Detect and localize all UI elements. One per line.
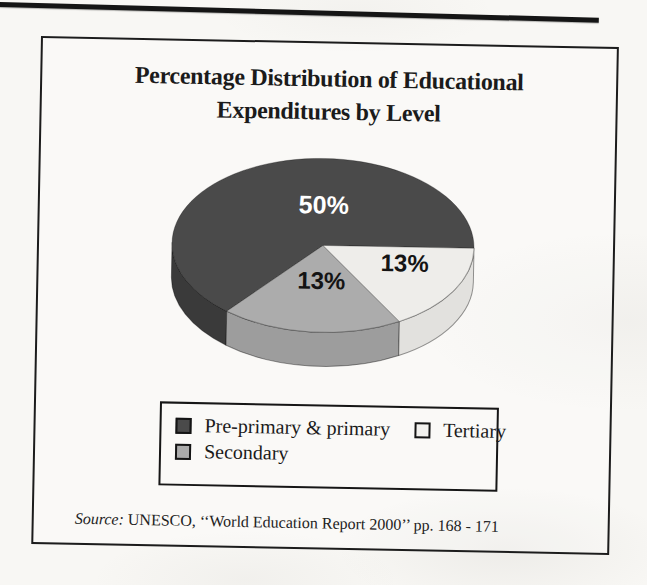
source-prefix: Source: [75,510,124,528]
pie-value-label-1: 13% [297,266,346,294]
page-top-rule [0,2,599,22]
source-text: UNESCO, ‘‘World Education Report 2000’’ … [124,511,499,535]
legend-label-secondary: Secondary [204,440,289,465]
pie-value-label-0: 50% [299,190,350,219]
legend-swatch-secondary-icon [175,443,191,459]
legend-label-pre-primary: Pre-primary & primary [204,414,390,441]
pie-value-label-2: 13% [380,249,429,277]
legend-box: Pre-primary & primary Tertiary Secondary [158,401,499,491]
legend-swatch-tertiary-icon [414,422,430,438]
source-note: Source: UNESCO, ‘‘World Education Report… [75,510,500,536]
legend-swatch-pre-primary-icon [175,417,191,433]
legend-label-tertiary: Tertiary [443,419,506,443]
chart-title: Percentage Distribution of Educational E… [41,38,617,134]
legend-row-1: Pre-primary & primary Tertiary [175,414,482,443]
legend-item-pre-primary: Pre-primary & primary [175,414,390,441]
legend-row-2: Secondary [175,440,482,469]
pie-chart-svg: 50%13%13% [134,128,560,436]
legend-item-secondary: Secondary [175,440,289,465]
legend-item-tertiary: Tertiary [414,418,506,443]
chart-frame: Percentage Distribution of Educational E… [31,36,619,555]
